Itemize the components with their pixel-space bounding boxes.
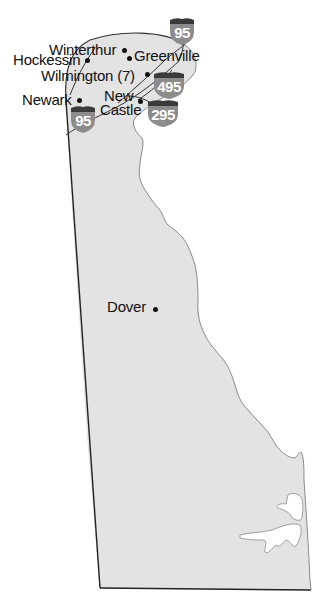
interstate-shield-95-north: 95 [168,16,196,46]
city-dot-new-castle [138,99,143,104]
city-dot-wilmington [145,72,150,77]
city-label-hockessin: Hockessin [13,52,80,67]
city-dot-greenville [127,56,132,61]
interstate-shield-295: 295 [146,98,180,128]
city-label-dover: Dover [107,299,146,314]
city-dot-winterthur [122,48,127,53]
city-label-greenville: Greenville [134,48,200,63]
interstate-shield-95-south: 95 [69,104,97,134]
interstate-shield-495: 495 [152,70,186,100]
shield-number: 95 [69,113,97,128]
city-label-wilmington: Wilmington (7) [41,68,135,83]
shield-number: 495 [152,79,186,94]
city-dot-dover [153,307,158,312]
city-label-new-castle-line2: Castle [100,102,141,117]
city-dot-newark [77,98,82,103]
city-dot-hockessin [85,58,90,63]
shield-number: 295 [146,107,180,122]
city-label-newark: Newark [22,92,72,107]
shield-number: 95 [168,25,196,40]
